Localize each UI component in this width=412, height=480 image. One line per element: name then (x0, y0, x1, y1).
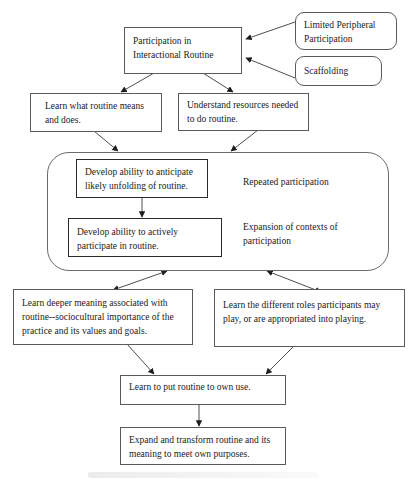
edge-lpp-to-participation (246, 22, 295, 39)
node-participation-in-interactional-routine: Participation in Interactional Routine (124, 27, 242, 74)
node-text: Learn to put routine to own use. (129, 382, 251, 392)
node-understand-resources: Understand resources needed to do routin… (178, 93, 309, 131)
node-develop-ability-actively-participate: Develop ability to actively participate … (68, 218, 222, 257)
node-expand-and-transform-routine: Expand and transform routine and its mea… (120, 427, 286, 465)
node-text: Learn what routine means and does. (45, 101, 144, 125)
label-text: Repeated participation (243, 177, 329, 187)
node-learn-what-routine-means: Learn what routine means and does. (30, 93, 162, 132)
node-text: Learn the different roles participants m… (223, 300, 380, 324)
node-learn-to-put-routine-to-own-use: Learn to put routine to own use. (120, 375, 286, 405)
node-text: Participation in Interactional Routine (133, 36, 213, 60)
node-scaffolding: Scaffolding (295, 56, 382, 86)
node-text: Learn deeper meaning associated with rou… (22, 298, 174, 336)
edge-different-roles-to-own-use (266, 346, 294, 374)
node-learn-deeper-meaning: Learn deeper meaning associated with rou… (13, 289, 193, 345)
edge-scaffolding-to-participation (246, 58, 295, 78)
node-text: Develop ability to actively participate … (77, 227, 178, 251)
node-text: Understand resources needed to do routin… (187, 100, 298, 124)
edge-participation-to-understand-resources (203, 73, 233, 92)
node-limited-peripheral-participation: Limited Peripheral Participation (295, 12, 397, 50)
edge-participation-to-learn-what (121, 73, 154, 92)
node-learn-different-roles: Learn the different roles participants m… (214, 289, 405, 347)
diagram-canvas: Participation in Interactional Routine L… (0, 0, 412, 480)
edge-container-deeper-meaning (113, 271, 167, 290)
node-text: Limited Peripheral Participation (304, 20, 376, 44)
node-develop-ability-anticipate: Develop ability to anticipate likely unf… (76, 159, 208, 198)
node-text: Develop ability to anticipate likely unf… (85, 167, 193, 191)
label-expansion-of-contexts: Expansion of contexts of participation (243, 220, 358, 248)
node-text: Scaffolding (304, 66, 348, 76)
label-repeated-participation: Repeated participation (243, 175, 383, 189)
edge-deeper-meaning-to-own-use (127, 344, 154, 374)
edge-learn-what-to-container (94, 131, 118, 151)
figure-caption-faint (88, 472, 318, 478)
label-text: Expansion of contexts of participation (243, 222, 338, 246)
node-text: Expand and transform routine and its mea… (129, 435, 270, 459)
edge-understand-resources-to-container (231, 130, 258, 151)
